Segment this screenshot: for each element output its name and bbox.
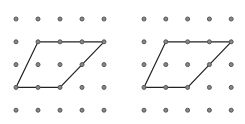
grid-dot [207, 108, 211, 112]
left-grid [14, 17, 106, 112]
grid-dot [102, 40, 106, 44]
grid-dot [14, 63, 18, 67]
grid-dot [142, 63, 146, 67]
grid-dot [229, 108, 233, 112]
grid-dot [164, 40, 168, 44]
grid-dot [36, 108, 40, 112]
grid-dot [229, 40, 233, 44]
grid-dot [80, 85, 84, 89]
right-grid [142, 17, 233, 112]
grid-dot [36, 63, 40, 67]
grid-dot [102, 17, 106, 21]
grid-dot [207, 85, 211, 89]
grid-dot [142, 108, 146, 112]
grid-dot [80, 108, 84, 112]
grid-dot [58, 85, 62, 89]
grid-dot [14, 40, 18, 44]
grid-dot [164, 63, 168, 67]
grid-dot [142, 17, 146, 21]
grid-dot [58, 17, 62, 21]
grid-dot [80, 63, 84, 67]
grid-dot [36, 85, 40, 89]
grid-dot [102, 108, 106, 112]
grid-dot [14, 85, 18, 89]
grid-dot [14, 17, 18, 21]
grid-dot [58, 108, 62, 112]
grid-dot [58, 40, 62, 44]
grid-dot [58, 63, 62, 67]
grid-dot [14, 108, 18, 112]
grid-dot [80, 40, 84, 44]
grid-dot [229, 63, 233, 67]
grid-dot [102, 85, 106, 89]
grid-dot [102, 63, 106, 67]
geoboard-figure [0, 0, 245, 124]
grid-dot [186, 17, 190, 21]
grid-dot [186, 40, 190, 44]
grid-dot [186, 63, 190, 67]
grid-dot [164, 108, 168, 112]
grid-dot [36, 40, 40, 44]
grid-dot [186, 108, 190, 112]
grid-dot [186, 85, 190, 89]
grid-dot [207, 63, 211, 67]
grid-dot [142, 40, 146, 44]
grid-dot [164, 85, 168, 89]
grid-dot [229, 85, 233, 89]
grid-dot [164, 17, 168, 21]
grid-dot [36, 17, 40, 21]
grid-dot [142, 85, 146, 89]
grid-dot [207, 40, 211, 44]
grid-dot [80, 17, 84, 21]
grid-dot [229, 17, 233, 21]
grid-dot [207, 17, 211, 21]
